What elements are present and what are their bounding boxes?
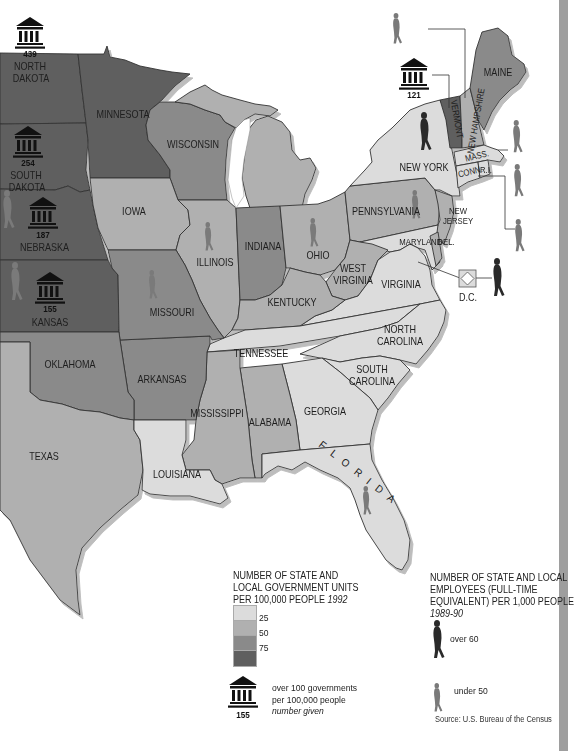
gov-units-nd: 439 bbox=[13, 48, 47, 59]
legend-tick-75: 75 bbox=[259, 642, 269, 653]
label-alabama: ALABAMA bbox=[246, 416, 294, 428]
legend-symbol-number: 155 bbox=[226, 709, 260, 720]
label-louisiana: LOUISIANA bbox=[149, 468, 206, 480]
states-layer bbox=[0, 28, 526, 615]
person-icon-nh-light bbox=[393, 13, 402, 43]
label-kansas: KANSAS bbox=[31, 316, 69, 328]
label-dc: D.C. bbox=[457, 291, 479, 303]
person-icon-dc-dark bbox=[493, 258, 504, 296]
label-georgia: GEORGIA bbox=[304, 405, 347, 417]
legend-emp-title: NUMBER OF STATE AND LOCAL EMPLOYEES (FUL… bbox=[430, 572, 574, 620]
legend-under-50: under 50 bbox=[454, 685, 488, 697]
legend-tick-25: 25 bbox=[259, 612, 269, 623]
gov-units-vt: 121 bbox=[397, 89, 431, 100]
label-wisconsin: WISCONSIN bbox=[165, 138, 222, 150]
label-maine: MAINE bbox=[481, 66, 515, 78]
person-icon-mass-light bbox=[513, 120, 522, 152]
label-mississippi: MISSISSIPPI bbox=[187, 407, 247, 419]
label-ri: R.I. bbox=[479, 165, 493, 175]
label-north-carolina: NORTHCAROLINA bbox=[372, 323, 427, 347]
label-north-dakota: NORTHDAKOTA bbox=[13, 60, 47, 84]
state-michigan-lower bbox=[242, 116, 316, 208]
label-nebraska: NEBRASKA bbox=[20, 241, 68, 253]
dc-inset bbox=[459, 270, 476, 287]
legend-tick-50: 50 bbox=[259, 627, 269, 638]
person-icon-legend-light bbox=[434, 683, 442, 712]
label-delaware: DEL. bbox=[436, 237, 457, 247]
label-virginia: VIRGINIA bbox=[376, 278, 426, 290]
person-icon-ri-light bbox=[514, 164, 523, 196]
label-west-virginia: WESTVIRGINIA bbox=[332, 262, 375, 286]
building-icon-nd bbox=[15, 17, 45, 49]
legend-over-60: over 60 bbox=[450, 633, 479, 645]
building-icon-legend bbox=[228, 676, 258, 708]
label-new-york: NEW YORK bbox=[396, 161, 451, 173]
label-indiana: INDIANA bbox=[242, 240, 285, 252]
label-maryland: MARYLAND bbox=[399, 237, 440, 247]
legend-symbol-text: over 100 governments per 100,000 people … bbox=[272, 682, 357, 717]
label-tennessee: TENNESSEE bbox=[231, 347, 291, 359]
label-iowa: IOWA bbox=[117, 205, 151, 217]
label-ohio: OHIO bbox=[303, 249, 334, 261]
label-pennsylvania: PENNSYLVANIA bbox=[350, 205, 422, 217]
label-texas: TEXAS bbox=[23, 450, 64, 462]
label-arkansas: ARKANSAS bbox=[136, 373, 188, 385]
gov-units-sd: 254 bbox=[11, 157, 45, 168]
legend-swatch-over-75 bbox=[233, 650, 257, 667]
legend-gov-title: NUMBER OF STATE AND LOCAL GOVERNMENT UNI… bbox=[233, 570, 359, 606]
label-south-dakota: SOUTHDAKOTA bbox=[9, 169, 43, 193]
label-south-carolina: SOUTHCAROLINA bbox=[344, 363, 399, 387]
label-illinois: ILLINOIS bbox=[194, 256, 237, 268]
label-minnesota: MINNESOTA bbox=[93, 108, 153, 120]
gov-units-ne: 187 bbox=[26, 229, 60, 240]
state-indiana bbox=[236, 206, 286, 300]
person-icon-legend-dark bbox=[433, 620, 444, 658]
building-icon-vt bbox=[399, 58, 429, 90]
label-kentucky: KENTUCKY bbox=[266, 296, 318, 308]
source-note: Source: U.S. Bureau of the Census bbox=[435, 714, 552, 724]
label-new-jersey: NEWJERSEY bbox=[443, 206, 474, 226]
label-oklahoma: OKLAHOMA bbox=[42, 358, 97, 370]
label-missouri: MISSOURI bbox=[148, 306, 196, 318]
gov-units-ks: 155 bbox=[33, 303, 67, 314]
person-icon-conn-light bbox=[515, 219, 524, 251]
